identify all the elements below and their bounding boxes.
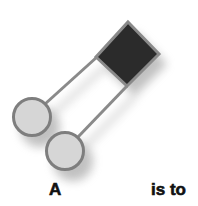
label-a: A <box>49 181 61 198</box>
diagram-figure <box>0 0 198 206</box>
circle-lower <box>47 133 84 170</box>
label-is-to: is to <box>151 181 186 198</box>
analogy-diagram: A is to <box>0 0 198 206</box>
circle-upper <box>14 99 51 136</box>
